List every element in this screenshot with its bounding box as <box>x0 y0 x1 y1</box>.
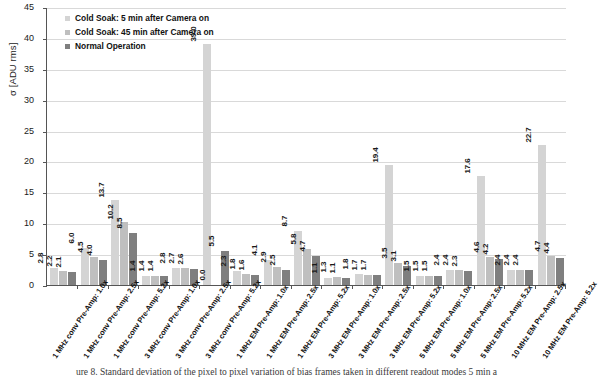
y-tick-mark <box>43 224 47 225</box>
bar-value-label: 4.0 <box>95 254 103 265</box>
bar-value-label: 2.4 <box>521 264 529 275</box>
y-tick-label: 10 <box>8 219 34 228</box>
legend-label: Cold Soak: 5 min after Camera on <box>75 13 209 25</box>
x-tick-mark <box>291 285 292 289</box>
bar-value-label: 2.6 <box>186 263 194 274</box>
bar-value-label: 4.4 <box>552 251 560 262</box>
x-axis-labels: 1 MHz conv Pre-Amp: 1.0x1 MHz conv Pre-A… <box>46 292 566 360</box>
x-axis-label: 3 MHz conv Pre-Amp: 5.2x <box>204 278 263 360</box>
y-tick-mark <box>43 286 47 287</box>
bar-value-label: 19.4 <box>381 157 389 172</box>
bar[interactable]: 2.1 <box>68 272 76 285</box>
bar-group: 22.74.74.4 <box>536 8 566 285</box>
legend-item[interactable]: Normal Operation <box>65 41 214 53</box>
bar-group: 8.75.84.7 <box>292 8 322 285</box>
x-axis-label: 3 MHz conv Pre-Amp: 2.5x <box>173 278 232 360</box>
x-axis-label: 1 MHz conv Pre-Amp: 2.5x <box>81 278 140 360</box>
bar-value-label: 8.5 <box>125 226 133 237</box>
bar-group: 2.42.42.4 <box>505 8 535 285</box>
bar[interactable]: 39.0 <box>203 44 211 285</box>
bar-value-label: 17.6 <box>473 168 481 183</box>
bar-group: 17.64.64.2 <box>475 8 505 285</box>
x-axis-label: 1 MHz conv Pre-Amp: 1.0x <box>51 278 110 360</box>
x-axis-label: 1 MHz EM Pre-Amp: 2.5x <box>265 283 321 360</box>
legend-swatch-icon <box>65 44 70 49</box>
x-axis-label: 1 MHz conv Pre-Amp: 5.2x <box>112 278 171 360</box>
bar-value-label: 0.0 <box>208 279 216 290</box>
x-tick-mark <box>321 285 322 289</box>
y-tick-label: 25 <box>8 127 34 136</box>
figure-caption: ure 8. Standard deviation of the pixel t… <box>0 366 573 378</box>
x-tick-mark <box>535 285 536 289</box>
x-axis-label: 10 MHz EM Pre-Amp: 2.5x <box>510 280 568 360</box>
bar[interactable]: 22.7 <box>538 145 546 285</box>
y-tick-label: 45 <box>8 3 34 12</box>
legend-swatch-icon <box>65 16 70 21</box>
y-tick-mark <box>43 8 47 9</box>
x-axis-label: 3 MHz conv Pre-Amp: 1.0x <box>143 278 202 360</box>
y-axis-title: σ [ADU rms] <box>7 0 18 96</box>
bar[interactable]: 17.6 <box>477 176 485 285</box>
bar-value-label: 1.4 <box>138 270 146 281</box>
y-tick-label: 20 <box>8 157 34 166</box>
bar-value-label: 1.7 <box>369 268 377 279</box>
y-tick-label: 15 <box>8 188 34 197</box>
x-axis-label: 5 MHz EM Pre-Amp: 1.0x <box>418 283 474 360</box>
bar-value-label: 1.5 <box>430 269 438 280</box>
chart-legend: Cold Soak: 5 min after Camera onCold Soa… <box>65 13 214 55</box>
bar-value-label: 5.5 <box>217 245 225 256</box>
y-tick-label: 30 <box>8 96 34 105</box>
bar-group: 2.42.42.3 <box>444 8 474 285</box>
x-tick-mark <box>352 285 353 289</box>
y-tick-mark <box>43 101 47 102</box>
legend-label: Normal Operation <box>75 41 146 53</box>
x-axis-label: 3 MHz EM Pre-Amp: 1.0x <box>326 283 382 360</box>
y-tick-mark <box>43 39 47 40</box>
bar-value-label: 2.3 <box>460 264 468 275</box>
bar-value-label: 1.1 <box>338 272 346 283</box>
y-tick-label: 5 <box>8 250 34 259</box>
bar-group: 4.12.92.5 <box>261 8 291 285</box>
y-tick-mark <box>43 70 47 71</box>
bar-value-label: 1.4 <box>147 270 155 281</box>
y-tick-label: 0 <box>8 281 34 290</box>
x-tick-mark <box>77 285 78 289</box>
legend-swatch-icon <box>65 30 70 35</box>
x-axis-label: 3 MHz EM Pre-Amp: 2.5x <box>357 283 413 360</box>
bar-value-label: 4.7 <box>308 250 316 261</box>
x-tick-mark <box>413 285 414 289</box>
x-axis-label: 5 MHz EM Pre-Amp: 5.2x <box>479 283 535 360</box>
bar-value-label: 1.1 <box>320 272 328 283</box>
y-tick-mark <box>43 132 47 133</box>
legend-item[interactable]: Cold Soak: 5 min after Camera on <box>65 13 214 25</box>
bar-value-label: 22.7 <box>534 136 542 151</box>
y-tick-label: 35 <box>8 65 34 74</box>
legend-label: Cold Soak: 45 min after Camera on <box>75 27 214 39</box>
x-axis-label: 10 MHz EM Pre-Amp: 5.2x <box>540 280 598 360</box>
bar-value-label: 2.1 <box>64 266 72 277</box>
bar-group: 1.51.51.5 <box>414 8 444 285</box>
x-tick-mark <box>474 285 475 289</box>
legend-item[interactable]: Cold Soak: 45 min after Camera on <box>65 27 214 39</box>
y-tick-label: 40 <box>8 34 34 43</box>
y-tick-mark <box>43 162 47 163</box>
bar-value-label: 2.5 <box>278 263 286 274</box>
bar-group: 19.43.53.1 <box>383 8 413 285</box>
plot-area: 051015202530354045 2.82.22.16.04.54.013.… <box>46 8 566 286</box>
y-tick-mark <box>43 193 47 194</box>
bar-group: 1.11.31.1 <box>322 8 352 285</box>
